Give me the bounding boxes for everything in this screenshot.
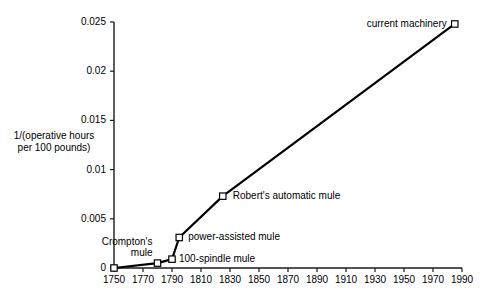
data-point-marker (220, 193, 226, 199)
x-axis-tick-label: 1990 (442, 274, 480, 285)
y-axis-tick-label: 0 (40, 262, 106, 273)
annotation-roberts-automatic-mule: Robert's automatic mule (233, 190, 341, 201)
annotation-power-assisted-mule: power-assisted mule (188, 231, 280, 242)
data-point-marker (452, 21, 458, 27)
annotation-cromptons-mule-line-1: Crompton's (0, 236, 153, 247)
y-axis-title-line-1: 1/(operative hours (2, 130, 106, 142)
data-line-series (114, 24, 455, 268)
y-axis-title-line-2: per 100 pounds) (2, 142, 106, 154)
data-point-marker (154, 260, 160, 266)
data-point-markers (111, 21, 458, 271)
data-point-marker (176, 234, 182, 240)
y-axis-tick-label: 0.01 (40, 164, 106, 175)
annotation-current-machinery: current machinery (0, 18, 447, 29)
annotation-100-spindle-mule: 100-spindle mule (179, 253, 255, 264)
data-line (114, 24, 455, 268)
y-axis-tick-label: 0.005 (40, 213, 106, 224)
data-point-marker (111, 265, 117, 271)
y-axis-tick-label: 0.02 (40, 65, 106, 76)
annotation-cromptons-mule: Crompton's mule (0, 236, 153, 258)
y-axis-title: 1/(operative hours per 100 pounds) (2, 130, 106, 154)
data-point-marker (169, 256, 175, 262)
annotation-cromptons-mule-line-2: mule (0, 247, 153, 258)
axis-lines (114, 22, 462, 268)
chart-container: 00.0050.010.0150.020.025 175017701790181… (0, 0, 480, 299)
y-axis-tick-label: 0.015 (40, 114, 106, 125)
